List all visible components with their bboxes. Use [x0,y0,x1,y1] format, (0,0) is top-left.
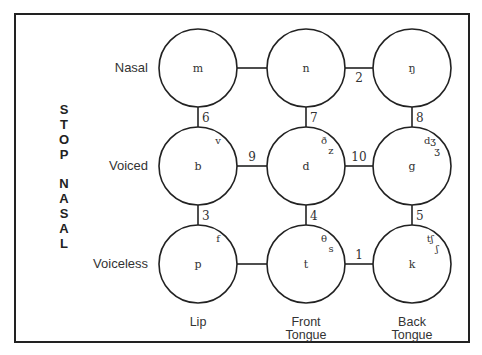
phoneme-symbol: p [194,258,201,271]
phoneme-symbol: b [194,160,201,173]
phoneme-extra: ʒ [434,145,440,156]
phoneme-symbol: g [408,160,415,173]
edge-label: 6 [202,111,210,125]
edge-label: 10 [351,150,366,164]
edge-label: 5 [416,209,424,223]
phoneme-symbol: m [193,62,204,75]
edge-label: 3 [202,209,210,223]
edge-label: 7 [310,111,318,125]
phoneme-extra: s [328,243,333,254]
phoneme-symbol: d [302,160,309,173]
phoneme-extra: z [328,145,333,156]
phoneme-symbol: t [304,258,309,271]
phoneme-network: 26789103451mnŋbvdðzgdʒʒpftθsktʃʃ [0,0,482,355]
phoneme-extra: ð [321,135,327,146]
phoneme-extra: v [214,135,221,146]
edge-label: 2 [355,71,363,85]
phoneme-symbol: ŋ [408,62,415,75]
phoneme-symbol: n [302,62,309,75]
edge-label: 4 [310,209,318,223]
phoneme-extra: θ [321,233,327,244]
edge-label: 1 [355,248,363,262]
edge-label: 8 [416,111,424,125]
phoneme-symbol: k [409,258,416,271]
edge-label: 9 [248,150,256,164]
